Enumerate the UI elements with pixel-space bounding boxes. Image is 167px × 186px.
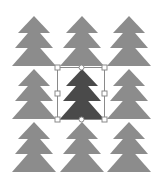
tree-tier-triangle: [66, 69, 98, 86]
selected-tree-shape-tree-r2-c2[interactable]: [60, 69, 104, 119]
tree-shape-tree-r1-c3[interactable]: [107, 16, 151, 66]
handle-bottom-right[interactable]: [102, 117, 107, 122]
tree-tier-triangle: [66, 122, 98, 139]
tree-shape-tree-r2-c3[interactable]: [107, 69, 151, 119]
handle-middle-left[interactable]: [55, 91, 60, 96]
handle-top-right[interactable]: [102, 65, 107, 70]
tree-shape-tree-r3-c2[interactable]: [60, 122, 104, 172]
tree-shape-tree-r1-c2[interactable]: [60, 16, 104, 66]
tree-tier-triangle: [18, 122, 50, 139]
tree-shape-tree-r3-c3[interactable]: [107, 122, 151, 172]
handle-top-center[interactable]: [79, 65, 84, 70]
tree-tier-triangle: [18, 16, 50, 33]
handle-top-left[interactable]: [55, 65, 60, 70]
tree-tier-triangle: [113, 69, 145, 86]
tree-tier-triangle: [18, 69, 50, 86]
tree-tier-triangle: [113, 16, 145, 33]
tree-shape-tree-r3-c1[interactable]: [12, 122, 56, 172]
drawing-canvas[interactable]: [0, 0, 167, 186]
tree-tier-triangle: [113, 122, 145, 139]
trees-layer: [12, 16, 151, 172]
tree-shape-tree-r1-c1[interactable]: [12, 16, 56, 66]
handle-bottom-left[interactable]: [55, 117, 60, 122]
handle-bottom-center[interactable]: [79, 117, 84, 122]
tree-tier-triangle: [66, 16, 98, 33]
tree-shape-tree-r2-c1[interactable]: [12, 69, 56, 119]
handle-middle-right[interactable]: [102, 91, 107, 96]
